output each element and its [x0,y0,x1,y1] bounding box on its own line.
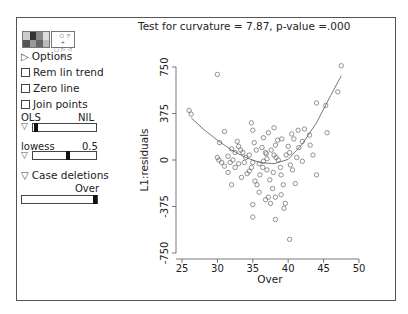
options-label: Options [32,50,73,62]
lowess-span-slider[interactable] [32,151,97,160]
case-deletions-label: Case deletions [32,169,109,181]
join-points-checkbox[interactable]: Join points [21,98,88,110]
rem-lin-trend-checkbox[interactable]: Rem lin trend [21,66,104,78]
point-symbols-icon[interactable]: · ○ ◇ +□ ▷ ◁ × [51,31,75,48]
ols-value: NIL [78,112,94,123]
lowess-slider-thumb[interactable] [66,151,70,160]
zero-line-label: Zero line [33,82,79,94]
triangle-right-icon: ▷ [21,51,29,62]
ols-slider-thumb[interactable] [34,123,38,132]
plot-title: Test for curvature = 7.87, p-value =.000 [138,20,350,32]
case-deletions-slider[interactable] [21,195,98,204]
zero-line-checkbox[interactable]: Zero line [21,82,79,94]
checkbox-icon[interactable] [21,68,30,77]
case-deletions-slider-thumb[interactable] [93,195,97,204]
checkbox-icon[interactable] [21,84,30,93]
join-points-label: Join points [33,98,88,110]
ols-menu-triangle-icon[interactable]: ▽ [21,121,28,131]
case-deletions-variable: Over [75,183,99,194]
checkbox-icon[interactable] [21,100,30,109]
rem-lin-trend-label: Rem lin trend [33,66,104,78]
options-menu[interactable]: ▷ Options [21,50,72,62]
lowess-menu-triangle-icon[interactable]: ▽ [21,150,28,160]
case-deletions-menu[interactable]: ▽ Case deletions [21,169,109,181]
color-palette-icon[interactable] [22,31,50,48]
triangle-down-icon: ▽ [21,170,29,181]
ols-slider[interactable] [32,123,97,132]
